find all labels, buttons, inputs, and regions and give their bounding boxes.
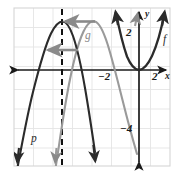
curve-label-p: p [31,133,37,145]
curve-label-g: g [85,30,91,42]
curve-label-f: f [163,34,166,46]
y-axis-label: y [145,10,149,20]
y-tick-label-neg4: −4 [120,123,132,134]
x-tick-label-2: 2 [152,71,158,82]
coordinate-graph-figure: −2 2 2 −4 x y f g p [0,0,181,174]
x-tick-label-neg2: −2 [98,71,110,82]
graph-canvas [0,0,181,174]
x-axis-label: x [165,72,170,82]
curve-g-arrowhead-down [55,148,56,162]
y-tick-label-2: 2 [126,27,132,38]
